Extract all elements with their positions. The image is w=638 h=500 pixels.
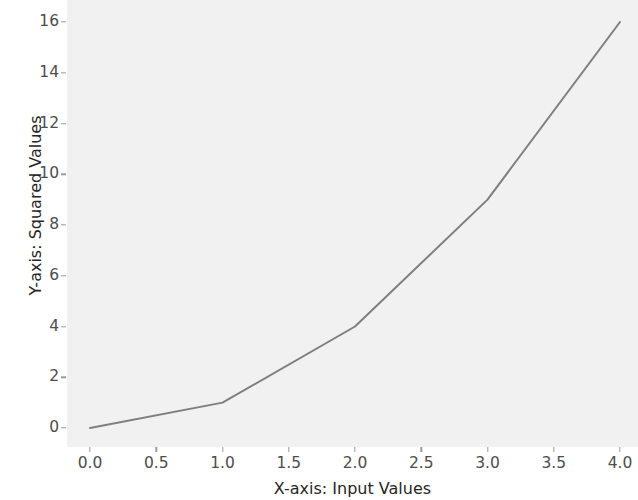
x-axis-tick-mark: [156, 447, 157, 452]
x-axis-tick-mark: [89, 447, 90, 452]
line-series-svg: [67, 0, 638, 447]
y-axis-tick-mark: [61, 21, 66, 22]
x-axis-tick-label: 3.0: [475, 456, 500, 472]
y-axis-tick-mark: [61, 326, 66, 327]
x-axis-tick-label: 2.0: [343, 456, 368, 472]
x-axis-tick-label: 0.0: [78, 456, 103, 472]
y-axis-tick-mark: [61, 72, 66, 73]
x-axis-title: X-axis: Input Values: [67, 479, 638, 498]
x-axis-tick-label: 1.5: [276, 456, 301, 472]
x-axis-tick-labels: 0.00.51.01.52.02.53.03.54.0: [67, 456, 638, 478]
line-series-path: [90, 22, 620, 428]
x-axis-tick-label: 4.0: [608, 456, 633, 472]
y-axis-tick-mark: [61, 427, 66, 428]
y-axis-tick-mark: [61, 174, 66, 175]
x-axis-tick-mark: [553, 447, 554, 452]
x-axis-tick-label: 2.5: [409, 456, 434, 472]
x-axis-tick-label: 3.5: [541, 456, 566, 472]
y-axis-tick-marks: [61, 0, 67, 447]
chart-figure: 0246810121416 0.00.51.01.52.02.53.03.54.…: [0, 0, 638, 500]
x-axis-tick-mark: [288, 447, 289, 452]
y-axis-tick-mark: [61, 377, 66, 378]
plot-area: [67, 0, 638, 447]
x-axis-tick-mark: [354, 447, 355, 452]
y-axis-tick-mark: [61, 224, 66, 225]
x-axis-tick-mark: [222, 447, 223, 452]
y-axis-title: Y-axis: Squared Values: [26, 0, 45, 429]
x-axis-tick-mark: [487, 447, 488, 452]
x-axis-tick-mark: [619, 447, 620, 452]
x-axis-tick-marks: [67, 447, 638, 453]
y-axis-tick-mark: [61, 275, 66, 276]
x-axis-tick-label: 0.5: [144, 456, 169, 472]
y-axis-tick-mark: [61, 123, 66, 124]
x-axis-tick-mark: [421, 447, 422, 452]
x-axis-tick-label: 1.0: [210, 456, 235, 472]
